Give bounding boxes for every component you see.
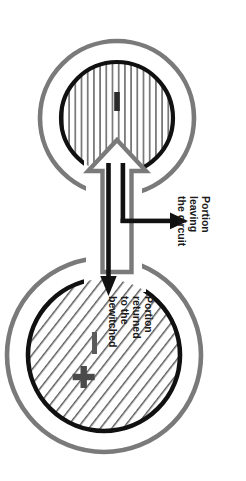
bewitched-node <box>28 279 180 431</box>
label-line: Portion <box>143 296 155 347</box>
label-line: to the <box>119 296 131 347</box>
label-portion-leaving-the-circuit: Portion leaving the circuit <box>176 196 212 246</box>
label-line: bewitched <box>107 296 119 347</box>
label-line: returned <box>131 296 143 347</box>
minus-icon <box>92 332 97 354</box>
label-line: Portion <box>200 196 212 246</box>
diagram-canvas: Portion leaving the circuit Portion retu… <box>0 0 246 481</box>
label-portion-returned-to-the-bewitched: Portion returned to the bewitched <box>107 296 155 347</box>
hollow-arrow-up-icon <box>88 140 146 272</box>
label-line: leaving <box>188 196 200 246</box>
label-line: the circuit <box>176 196 188 246</box>
minus-icon <box>114 92 120 111</box>
